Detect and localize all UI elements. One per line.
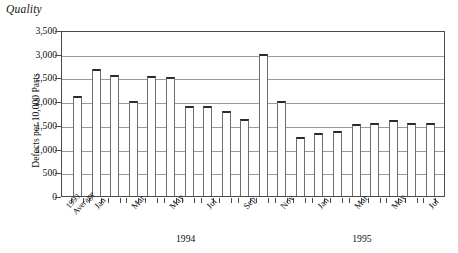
x-tick-label: Jan	[316, 196, 331, 211]
y-tick-label: 1,000	[0, 145, 57, 155]
x-tick-label: Sep	[242, 195, 258, 211]
bar	[314, 133, 323, 196]
y-tick-label: 2,500	[0, 74, 57, 84]
y-tick-label: 1,500	[0, 121, 57, 131]
bar	[296, 137, 305, 196]
gridline	[62, 56, 444, 57]
y-tick-label: 3,000	[0, 50, 57, 60]
x-tick-mark	[194, 198, 195, 203]
x-tick-mark	[417, 198, 418, 203]
x-tick-mark	[386, 198, 387, 203]
x-tick-mark	[380, 198, 381, 203]
bar	[129, 101, 138, 196]
x-tick-label: Jul	[205, 197, 219, 211]
x-tick-mark	[120, 198, 121, 203]
x-tick-mark	[275, 198, 276, 203]
y-tick-label: 3,500	[0, 26, 57, 36]
y-tick-mark	[55, 197, 61, 198]
bar	[147, 76, 156, 196]
x-tick-mark	[126, 198, 127, 203]
x-tick-label: Jan	[93, 196, 108, 211]
bar	[426, 123, 435, 196]
x-tick-mark	[238, 198, 239, 203]
bar	[240, 119, 249, 196]
x-tick-mark	[231, 198, 232, 203]
bar	[92, 69, 101, 196]
bar	[389, 120, 398, 196]
bar	[110, 75, 119, 196]
bar	[277, 101, 286, 196]
bar	[407, 123, 416, 196]
bar	[259, 54, 268, 196]
x-tick-mark	[157, 198, 158, 203]
x-tick-mark	[305, 198, 306, 203]
year-group-label: 1995	[352, 233, 371, 244]
x-tick-mark	[164, 198, 165, 203]
x-tick-mark	[312, 198, 313, 203]
bar	[222, 111, 231, 196]
bar	[370, 123, 379, 197]
bar	[352, 124, 361, 196]
x-tick-label: Jul	[427, 197, 441, 211]
chart-title: Quality	[6, 3, 42, 15]
x-tick-mark	[342, 198, 343, 203]
bar	[333, 131, 342, 196]
plot-area	[61, 31, 445, 197]
x-tick-mark	[349, 198, 350, 203]
y-tick-label: 2,000	[0, 97, 57, 107]
bar	[185, 106, 194, 196]
year-group-label: 1994	[176, 233, 195, 244]
bar	[73, 96, 82, 196]
x-tick-mark	[268, 198, 269, 203]
x-tick-mark	[201, 198, 202, 203]
x-tick-mark	[423, 198, 424, 203]
quality-bar-chart: Quality Defects per 10,000 Parts 05001,0…	[0, 0, 458, 253]
y-tick-label: 500	[0, 168, 57, 178]
y-tick-label: 0	[0, 192, 57, 202]
bar	[203, 106, 212, 196]
bar	[166, 77, 175, 196]
